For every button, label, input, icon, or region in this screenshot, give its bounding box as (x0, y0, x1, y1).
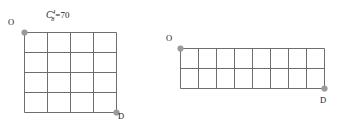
grid-left (18, 26, 122, 118)
lattice-figure-left: C48=70 O D (0, 0, 160, 135)
formula-subscript-left: 8 (51, 16, 54, 22)
origin-marker (21, 29, 27, 35)
origin-marker (177, 45, 183, 51)
lattice-figure-right: C210=45 O D (160, 0, 338, 135)
grid-right (174, 42, 330, 94)
origin-label-left: O (8, 17, 14, 27)
formula-label-left: C48=70 (46, 9, 72, 22)
destination-label-left: D (118, 111, 124, 121)
diagram-canvas: C48=70 O D C210=45 O D (0, 0, 338, 135)
origin-label-right: O (166, 33, 172, 43)
destination-label-right: D (320, 95, 326, 105)
formula-value-left: 70 (60, 10, 69, 20)
destination-marker (321, 85, 327, 91)
